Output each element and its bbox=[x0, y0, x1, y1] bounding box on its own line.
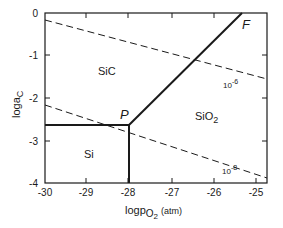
x-axis-tick-labels: -30 -29 -28 -27 -26 -25 bbox=[38, 187, 264, 198]
x-tick-label: -29 bbox=[79, 187, 94, 198]
y-tick-label: -1 bbox=[29, 50, 38, 61]
y-tick-label: -4 bbox=[29, 178, 38, 189]
y-tick-label: -3 bbox=[29, 136, 38, 147]
x-axis-ticks bbox=[86, 13, 256, 183]
region-label-sic: SiC bbox=[98, 65, 116, 77]
x-axis-label: logpO2(atm) bbox=[125, 204, 182, 221]
x-tick-label: -26 bbox=[207, 187, 222, 198]
y-axis-tick-labels: 0 -1 -2 -3 -4 bbox=[29, 8, 38, 189]
x-tick-label: -30 bbox=[38, 187, 53, 198]
sic-sio2-boundary bbox=[129, 13, 242, 125]
y-tick-label: -2 bbox=[29, 93, 38, 104]
y-axis-label: logaC bbox=[10, 90, 25, 118]
isobar-1e-6-line bbox=[45, 20, 267, 79]
isobar-label-1e-6: 10-6 bbox=[223, 78, 238, 90]
y-tick-label: 0 bbox=[32, 8, 38, 19]
region-label-sio2: SiO2 bbox=[195, 110, 218, 125]
point-label-p: P bbox=[120, 107, 129, 122]
phase-stability-diagram: -30 -29 -28 -27 -26 -25 0 -1 -2 -3 -4 lo… bbox=[0, 0, 283, 228]
x-tick-label: -25 bbox=[249, 187, 264, 198]
x-tick-label: -28 bbox=[121, 187, 136, 198]
isobar-label-1e-8: 10-8 bbox=[222, 164, 237, 176]
x-tick-label: -27 bbox=[165, 187, 180, 198]
point-label-f: F bbox=[242, 17, 251, 32]
phase-boundaries bbox=[45, 13, 242, 183]
region-label-si: Si bbox=[84, 148, 94, 160]
